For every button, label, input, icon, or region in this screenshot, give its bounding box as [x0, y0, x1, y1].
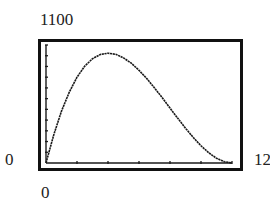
- y-min-label: 0: [5, 151, 14, 168]
- x-min-label: 0: [41, 184, 50, 201]
- axes: [45, 45, 232, 164]
- x-max-label: 12: [254, 151, 270, 168]
- graph-plot: [41, 42, 240, 168]
- y-max-label: 1100: [40, 11, 73, 28]
- function-curve: [46, 53, 232, 163]
- calculator-graph-window: [38, 39, 243, 171]
